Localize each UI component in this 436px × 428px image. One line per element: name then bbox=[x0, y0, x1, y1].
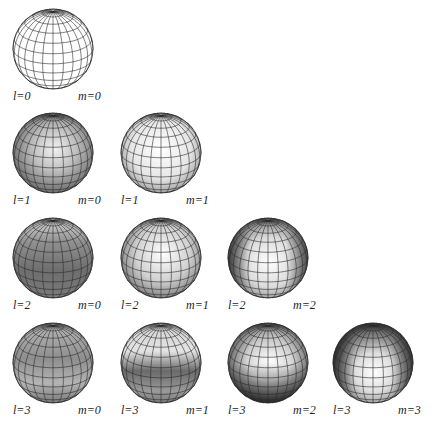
sphere-plot bbox=[0, 6, 108, 92]
sphere-grid-lines bbox=[228, 323, 308, 403]
sphere-plot bbox=[0, 110, 108, 196]
harmonic-cell-l3-m0: l=3m=0 bbox=[0, 320, 108, 424]
sphere-plot bbox=[108, 320, 216, 406]
order-label: m=0 bbox=[78, 299, 101, 311]
harmonic-cell-l0-m0: l=0m=0 bbox=[0, 6, 108, 110]
harmonic-cell-l2-m0: l=2m=0 bbox=[0, 215, 108, 319]
harmonic-cell-l3-m1: l=3m=1 bbox=[108, 320, 216, 424]
sphere-grid-lines bbox=[13, 9, 93, 89]
sphere-plot bbox=[215, 215, 323, 301]
sphere-grid-lines bbox=[13, 218, 93, 298]
degree-label: l=3 bbox=[228, 404, 245, 416]
harmonic-cell-l2-m1: l=2m=1 bbox=[108, 215, 216, 319]
harmonic-cell-l2-m2: l=2m=2 bbox=[215, 215, 323, 319]
harmonic-cell-l1-m0: l=1m=0 bbox=[0, 110, 108, 214]
order-label: m=2 bbox=[293, 404, 316, 416]
sphere-grid-lines bbox=[13, 323, 93, 403]
harmonic-cell-l3-m2: l=3m=2 bbox=[215, 320, 323, 424]
harmonic-cell-l1-m1: l=1m=1 bbox=[108, 110, 216, 214]
sphere-grid-lines bbox=[333, 323, 413, 403]
degree-label: l=1 bbox=[121, 194, 138, 206]
degree-label: l=3 bbox=[13, 404, 30, 416]
degree-label: l=3 bbox=[121, 404, 138, 416]
order-label: m=2 bbox=[293, 299, 316, 311]
order-label: m=3 bbox=[398, 404, 421, 416]
order-label: m=0 bbox=[78, 194, 101, 206]
degree-label: l=3 bbox=[333, 404, 350, 416]
order-label: m=0 bbox=[78, 90, 101, 102]
sphere-plot bbox=[108, 215, 216, 301]
degree-label: l=1 bbox=[13, 194, 30, 206]
sphere-grid-lines bbox=[121, 113, 201, 193]
sphere-grid-lines bbox=[228, 218, 308, 298]
degree-label: l=2 bbox=[228, 299, 245, 311]
order-label: m=1 bbox=[186, 299, 209, 311]
order-label: m=0 bbox=[78, 404, 101, 416]
sphere-plot bbox=[320, 320, 428, 406]
spherical-harmonics-figure: l=0m=0l=1m=0l=1m=1l=2m=0l=2m=1l=2m=2l=3m… bbox=[0, 0, 436, 428]
sphere-grid-lines bbox=[13, 113, 93, 193]
degree-label: l=0 bbox=[13, 90, 30, 102]
sphere-plot bbox=[0, 215, 108, 301]
order-label: m=1 bbox=[186, 194, 209, 206]
sphere-plot bbox=[215, 320, 323, 406]
degree-label: l=2 bbox=[121, 299, 138, 311]
sphere-plot bbox=[0, 320, 108, 406]
sphere-grid-lines bbox=[121, 218, 201, 298]
sphere-grid-lines bbox=[121, 323, 201, 403]
harmonic-cell-l3-m3: l=3m=3 bbox=[320, 320, 428, 424]
order-label: m=1 bbox=[186, 404, 209, 416]
sphere-plot bbox=[108, 110, 216, 196]
degree-label: l=2 bbox=[13, 299, 30, 311]
